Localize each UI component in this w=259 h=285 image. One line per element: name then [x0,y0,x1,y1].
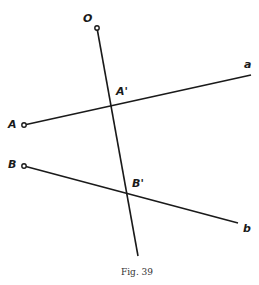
label-b: b [243,223,251,234]
label-B-prime: B' [132,178,144,189]
line-O [97,28,138,256]
figure-caption: Fig. 39 [121,268,153,277]
label-O: O [83,13,92,24]
figure-canvas [0,0,259,285]
label-A: A [8,119,17,130]
line-Aa [24,75,251,125]
label-A-prime: A' [116,86,128,97]
geometry-figure: O A B A' B' a b Fig. 39 [0,0,259,285]
point-B-dot [22,164,26,168]
point-A-dot [22,123,26,127]
point-O-dot [95,26,99,30]
label-a: a [244,59,251,70]
label-B: B [8,159,16,170]
